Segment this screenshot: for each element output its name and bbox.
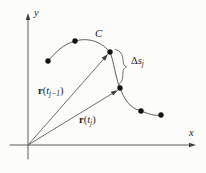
arc-length-subscript: j	[141, 59, 144, 68]
curve-point-5	[138, 108, 143, 113]
vector-r-prev-label: r(tj−1)	[38, 85, 64, 98]
vector-r-curr-arrowhead	[111, 90, 118, 96]
arc-length-label: Δsj	[131, 55, 144, 68]
curve-label: C	[95, 27, 103, 39]
y-axis-label: y	[33, 7, 39, 18]
curve-point-4	[117, 85, 122, 90]
vector-r-prev-close-paren: )	[60, 85, 64, 97]
vector-r-prev	[28, 59, 103, 145]
y-axis-arrowhead	[26, 13, 31, 20]
curve-point-3	[107, 49, 112, 54]
x-axis-arrowhead	[189, 143, 196, 148]
curve-point-1	[45, 58, 50, 63]
vector-r-curr-label: r(tj)	[79, 114, 96, 127]
x-axis-label: x	[188, 127, 194, 138]
vector-r-curr-close-paren: )	[92, 114, 96, 126]
curve-point-6	[158, 112, 163, 117]
curve-c	[48, 40, 161, 116]
figure-canvas: y x C r(tj−1) r(tj) Δsj	[0, 0, 206, 173]
curve-point-2	[72, 38, 77, 43]
arc-length-diagram: y x C r(tj−1) r(tj) Δsj	[0, 0, 206, 173]
vector-r-curr	[28, 94, 112, 145]
vector-r-prev-subscript: j−1	[48, 89, 60, 98]
